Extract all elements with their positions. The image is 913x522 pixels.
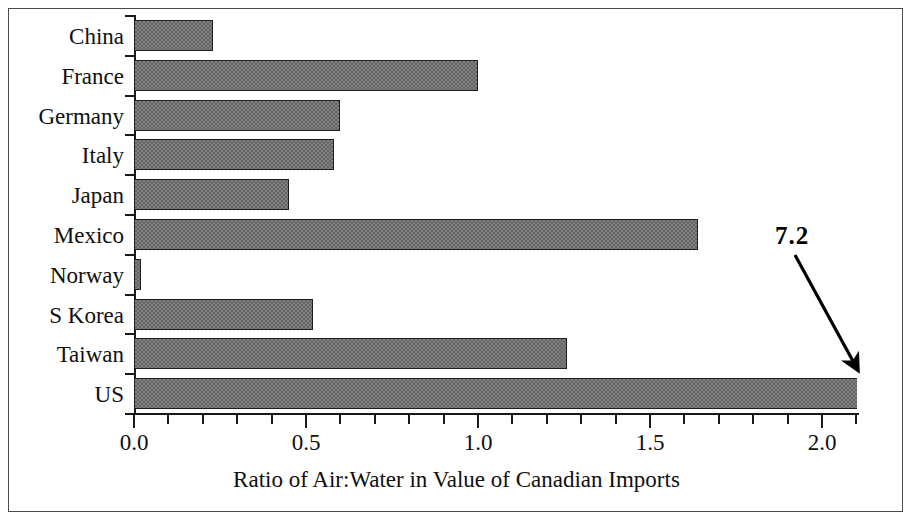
value-tick-minor [546, 415, 548, 424]
bar-france [134, 60, 478, 91]
category-tick [125, 333, 135, 335]
bar-china [134, 20, 213, 51]
value-tick-minor [202, 415, 204, 424]
value-tick-minor [683, 415, 685, 424]
value-tick-label: 0.5 [292, 430, 321, 456]
bar-row [134, 96, 857, 136]
bar-norway [134, 259, 141, 290]
bar-japan [134, 179, 289, 210]
category-labels: ChinaFranceGermanyItalyJapanMexicoNorway… [0, 0, 124, 522]
bar-row [134, 175, 857, 215]
category-tick [125, 373, 135, 375]
bar-taiwan [134, 338, 567, 369]
bar-mexico [134, 219, 698, 250]
category-label-france: France [4, 65, 124, 88]
value-tick-label: 0.0 [120, 430, 149, 456]
category-label-china: China [4, 25, 124, 48]
category-label-japan: Japan [4, 184, 124, 207]
value-tick-minor [167, 415, 169, 424]
value-tick-major [477, 415, 479, 428]
value-tick-minor [374, 415, 376, 424]
value-tick-minor [615, 415, 617, 424]
bar-italy [134, 139, 334, 170]
value-tick-minor [408, 415, 410, 424]
value-tick-major [821, 415, 823, 428]
annotation-value-label: 7.2 [775, 222, 809, 250]
category-tick [125, 134, 135, 136]
bar-row [134, 295, 857, 335]
category-label-s-korea: S Korea [4, 304, 124, 327]
category-label-norway: Norway [4, 264, 124, 287]
category-tick [125, 174, 135, 176]
bar-s-korea [134, 299, 313, 330]
category-tick [125, 214, 135, 216]
value-tick-minor [339, 415, 341, 424]
bar-row [134, 56, 857, 96]
bar-us [134, 378, 857, 409]
value-tick-minor [580, 415, 582, 424]
chart-figure: ChinaFranceGermanyItalyJapanMexicoNorway… [0, 0, 913, 522]
value-tick-label: 1.5 [636, 430, 665, 456]
x-axis-title: Ratio of Air:Water in Value of Canadian … [0, 467, 913, 493]
category-tick [125, 95, 135, 97]
category-tick [125, 15, 135, 17]
value-tick-minor [752, 415, 754, 424]
value-tick-label: 1.0 [464, 430, 493, 456]
category-label-mexico: Mexico [4, 224, 124, 247]
category-tick [125, 55, 135, 57]
bar-row [134, 334, 857, 374]
bar-germany [134, 100, 340, 131]
value-tick-minor [511, 415, 513, 424]
category-tick [125, 254, 135, 256]
bar-row [134, 255, 857, 295]
value-tick-minor [271, 415, 273, 424]
value-tick-minor [236, 415, 238, 424]
value-tick-minor [443, 415, 445, 424]
bar-row [134, 374, 857, 414]
category-label-italy: Italy [4, 144, 124, 167]
value-tick-label: 2.0 [808, 430, 837, 456]
category-tick [125, 294, 135, 296]
bar-row [134, 135, 857, 175]
category-label-germany: Germany [4, 105, 124, 128]
value-tick-minor [855, 415, 857, 424]
bar-row [134, 16, 857, 56]
value-tick-major [305, 415, 307, 428]
category-label-taiwan: Taiwan [4, 343, 124, 366]
bar-row [134, 215, 857, 255]
value-tick-minor [718, 415, 720, 424]
category-label-us: US [4, 383, 124, 406]
value-tick-major [649, 415, 651, 428]
value-tick-major [133, 415, 135, 428]
value-tick-minor [787, 415, 789, 424]
plot-area [134, 16, 857, 414]
